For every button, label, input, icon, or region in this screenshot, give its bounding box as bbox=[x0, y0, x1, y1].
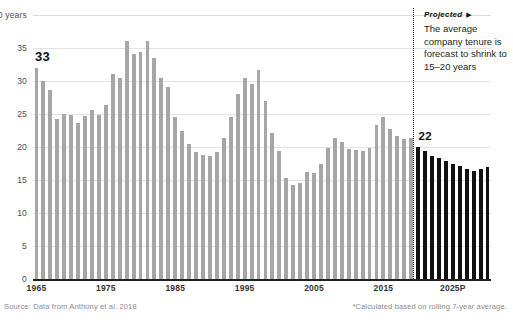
projected-heading: Projected ▶ bbox=[424, 10, 510, 19]
bar-1966 bbox=[41, 81, 45, 279]
bar-2009 bbox=[340, 142, 344, 279]
bar-1991 bbox=[215, 152, 219, 279]
source-footnote: Source: Data from Anthony et al. 2018 bbox=[4, 302, 137, 311]
bar-2001 bbox=[284, 178, 288, 279]
projection-value-label: 22 bbox=[418, 130, 431, 142]
x-axis-tick-2025P: 2025P bbox=[440, 283, 466, 293]
y-axis-tick-35: 35 bbox=[17, 43, 27, 53]
bar-2023 bbox=[437, 158, 441, 279]
bar-1971 bbox=[76, 123, 80, 279]
bar-1996 bbox=[250, 84, 254, 279]
bar-2029 bbox=[479, 169, 483, 279]
bar-1984 bbox=[166, 87, 170, 279]
bar-2010 bbox=[347, 149, 351, 279]
bar-2000 bbox=[277, 151, 281, 279]
bar-2022 bbox=[430, 156, 434, 279]
bar-1972 bbox=[83, 116, 87, 279]
bar-1995 bbox=[243, 78, 247, 279]
bar-2006 bbox=[319, 164, 323, 280]
x-axis-tick-1995: 1995 bbox=[235, 283, 255, 293]
bar-2015 bbox=[381, 117, 385, 279]
bar-1992 bbox=[222, 138, 226, 279]
bar-2024 bbox=[444, 161, 448, 279]
bar-1980 bbox=[139, 52, 143, 279]
x-axis-ticks: 1965197519851995200520152025P bbox=[33, 283, 491, 297]
triangle-right-icon: ▶ bbox=[466, 11, 472, 18]
projection-divider bbox=[413, 8, 414, 279]
bar-1999 bbox=[270, 133, 274, 279]
bar-1978 bbox=[125, 41, 129, 279]
bar-1988 bbox=[194, 152, 198, 279]
first-value-label: 33 bbox=[35, 49, 50, 64]
x-axis-tick-2005: 2005 bbox=[304, 283, 324, 293]
bar-1981 bbox=[146, 41, 150, 279]
chart-root: 0510152025303540 years 19651975198519952… bbox=[0, 0, 513, 320]
x-axis-tick-1965: 1965 bbox=[27, 283, 47, 293]
projection-description: The average company tenure is forecast t… bbox=[424, 23, 510, 73]
y-axis-tick-10: 10 bbox=[17, 208, 27, 218]
bar-1975 bbox=[104, 105, 108, 279]
bar-2018 bbox=[402, 139, 406, 279]
projection-annotation: Projected ▶ The average company tenure i… bbox=[424, 10, 510, 73]
bar-1987 bbox=[187, 144, 191, 279]
bar-2003 bbox=[298, 183, 302, 279]
bar-2012 bbox=[361, 151, 365, 279]
y-axis-tick-30: 30 bbox=[17, 76, 27, 86]
bar-1977 bbox=[118, 78, 122, 279]
bar-1994 bbox=[236, 94, 240, 279]
bar-1989 bbox=[201, 155, 205, 279]
x-axis-tick-1975: 1975 bbox=[96, 283, 116, 293]
bar-2011 bbox=[354, 150, 358, 279]
bar-1974 bbox=[97, 115, 101, 279]
method-footnote: *Calculated based on rolling 7-year aver… bbox=[352, 302, 507, 311]
bar-2025 bbox=[451, 164, 455, 280]
bar-1997 bbox=[257, 70, 261, 279]
bar-1970 bbox=[69, 115, 73, 279]
bar-2016 bbox=[388, 129, 392, 279]
bar-2007 bbox=[326, 148, 330, 279]
bar-1993 bbox=[229, 117, 233, 279]
bar-2026 bbox=[458, 166, 462, 279]
bar-series bbox=[33, 15, 491, 279]
y-axis-tick-20: 20 bbox=[17, 142, 27, 152]
bar-2013 bbox=[368, 148, 372, 279]
bar-2030 bbox=[486, 167, 490, 279]
bar-1965 bbox=[35, 68, 39, 279]
bar-2020 bbox=[416, 147, 420, 279]
bar-2002 bbox=[291, 185, 295, 279]
bar-1969 bbox=[62, 114, 66, 279]
bar-2008 bbox=[333, 138, 337, 279]
bar-2005 bbox=[312, 173, 316, 279]
x-axis-baseline bbox=[33, 279, 491, 281]
bar-1983 bbox=[159, 78, 163, 279]
y-axis-tick-25: 25 bbox=[17, 109, 27, 119]
bar-1976 bbox=[111, 74, 115, 279]
bar-2027 bbox=[465, 169, 469, 279]
bar-1990 bbox=[208, 156, 212, 279]
x-axis-tick-2015: 2015 bbox=[374, 283, 394, 293]
x-axis-tick-1985: 1985 bbox=[165, 283, 185, 293]
y-axis-tick-40: 40 years bbox=[0, 10, 27, 20]
bar-2004 bbox=[305, 172, 309, 279]
plot-area: 0510152025303540 years bbox=[33, 15, 491, 279]
bar-2021 bbox=[423, 151, 427, 279]
bar-1979 bbox=[132, 54, 136, 279]
y-axis-tick-15: 15 bbox=[17, 175, 27, 185]
bar-1998 bbox=[264, 101, 268, 279]
bar-1985 bbox=[173, 117, 177, 279]
bar-2028 bbox=[472, 171, 476, 279]
bar-1968 bbox=[55, 119, 59, 279]
bar-1973 bbox=[90, 110, 94, 279]
y-axis-tick-5: 5 bbox=[22, 241, 27, 251]
bar-2017 bbox=[395, 136, 399, 279]
projected-heading-label: Projected bbox=[424, 10, 462, 19]
bar-1982 bbox=[152, 58, 156, 279]
bar-2014 bbox=[375, 125, 379, 279]
bar-1967 bbox=[48, 90, 52, 279]
bar-1986 bbox=[180, 131, 184, 279]
